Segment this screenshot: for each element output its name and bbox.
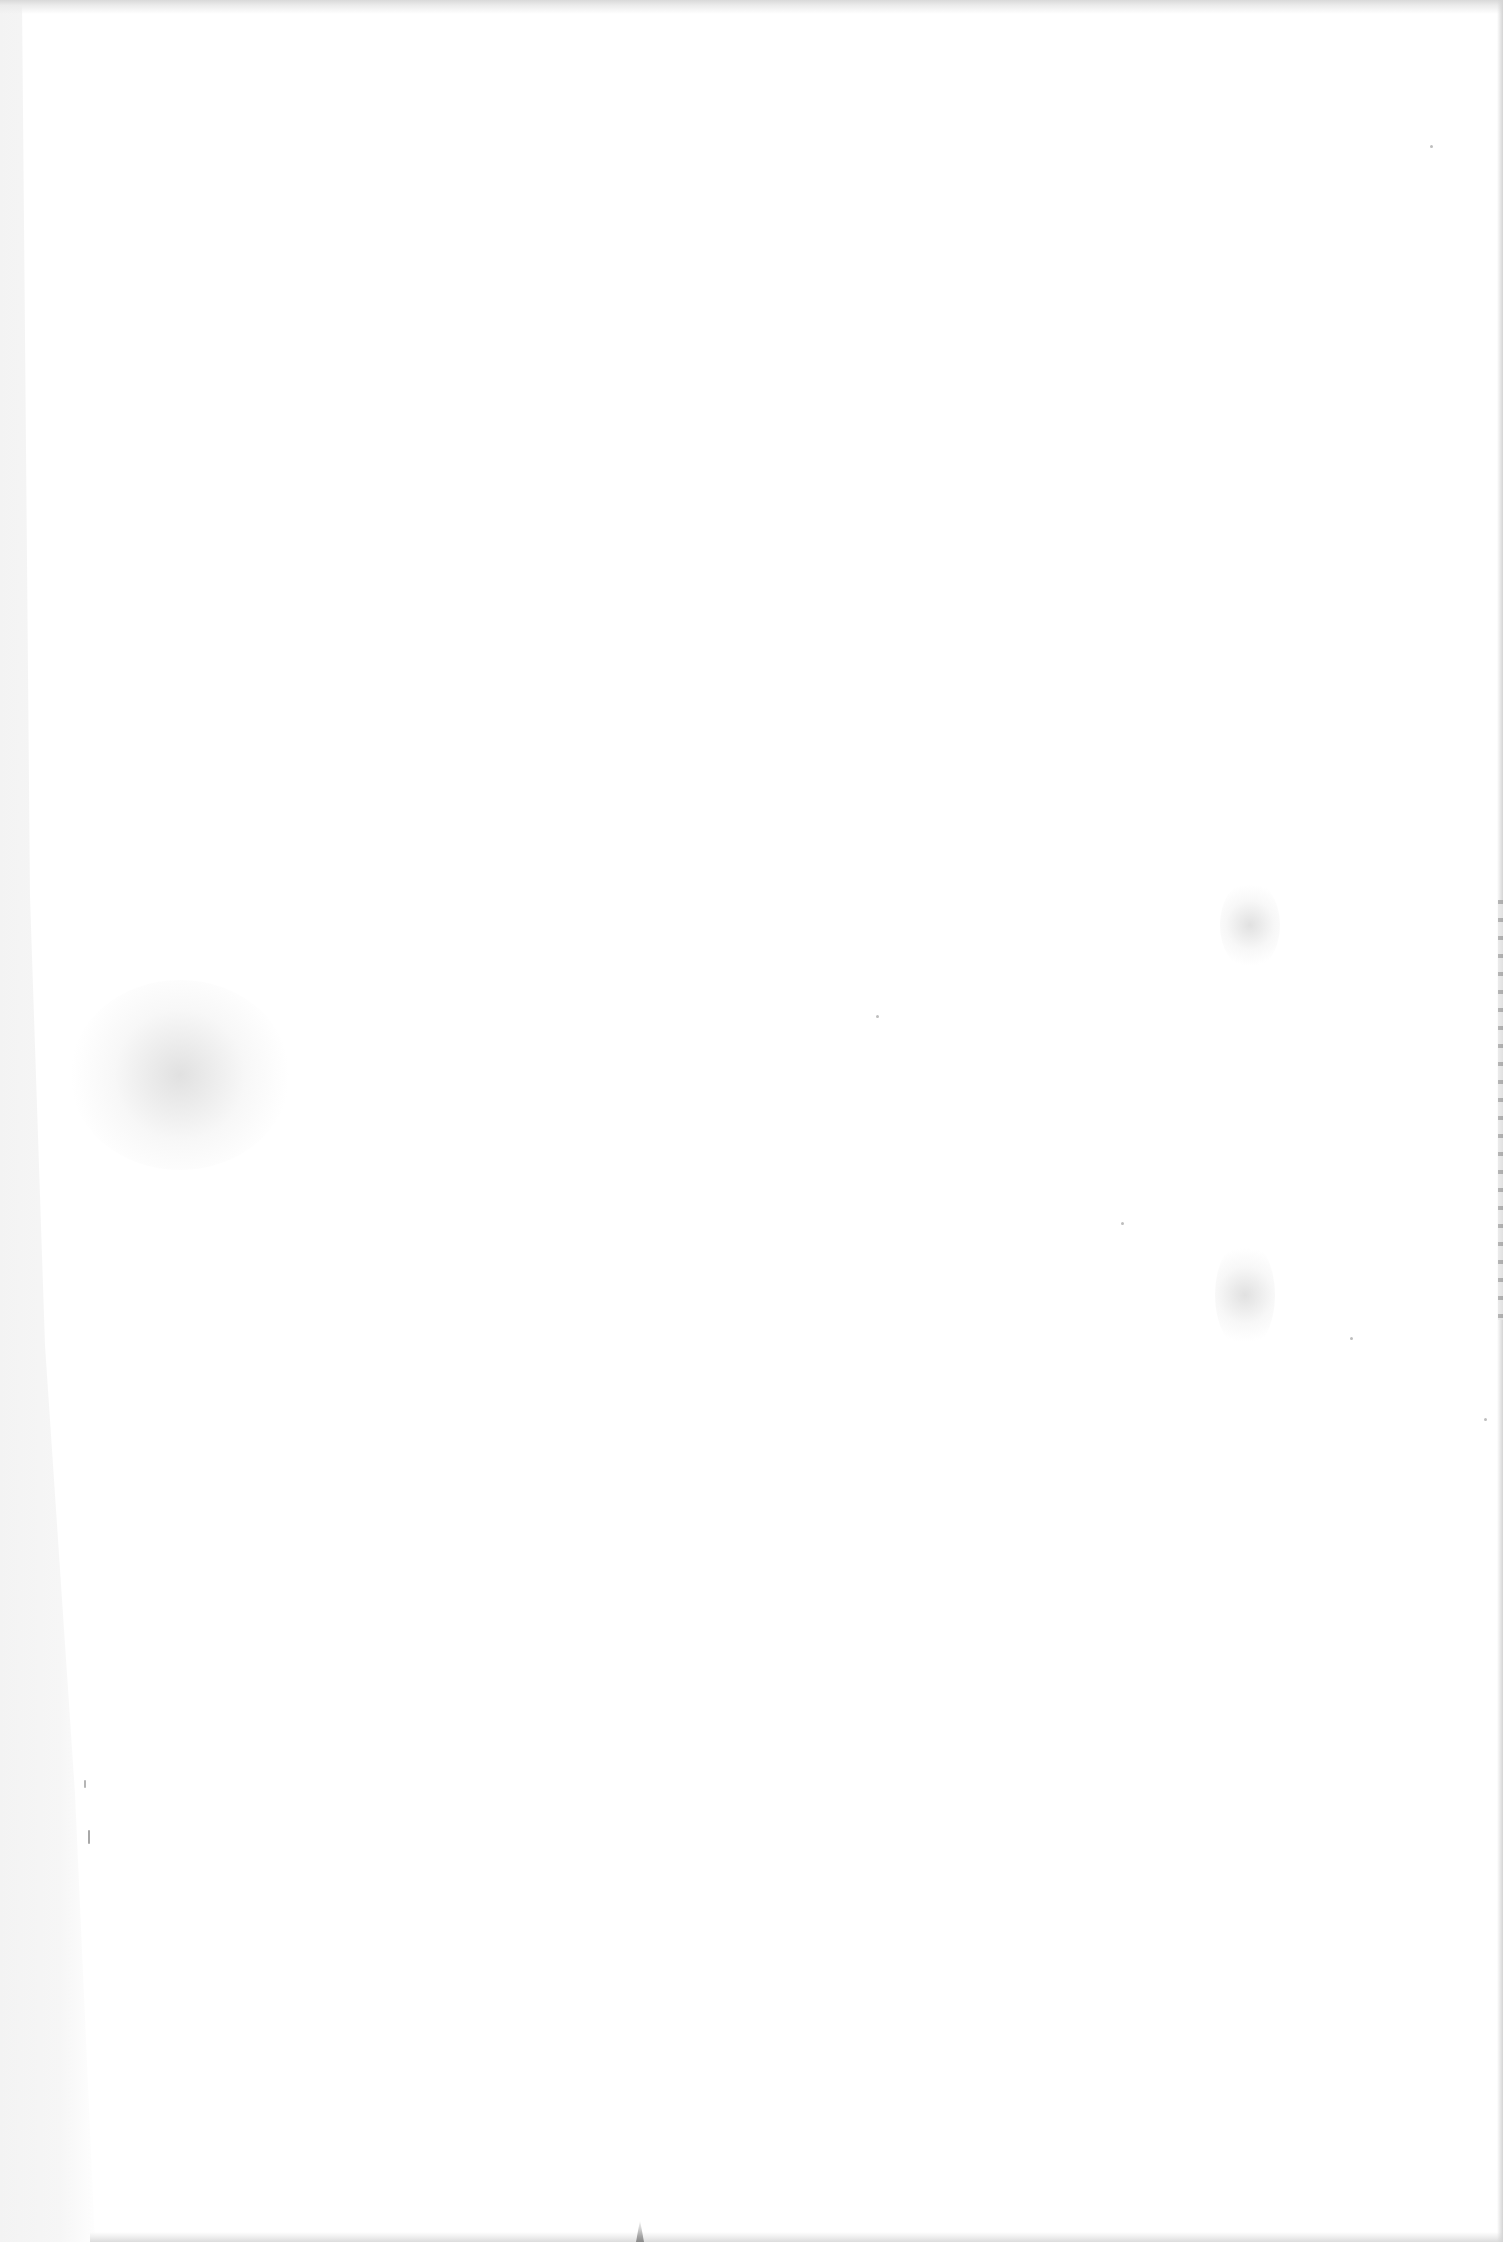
scan-speck	[876, 1015, 879, 1018]
scan-speck	[1121, 1222, 1124, 1225]
scan-speck	[1350, 1337, 1353, 1340]
scan-speck	[1430, 145, 1433, 148]
scan-artifact-mark	[636, 2220, 644, 2242]
scan-speck	[84, 1780, 86, 1788]
scan-smudge	[1220, 880, 1280, 970]
scan-speck	[1484, 1418, 1487, 1421]
scan-smudge	[70, 980, 290, 1170]
scan-smudge	[1215, 1240, 1275, 1350]
scan-top-edge	[0, 0, 1503, 14]
scan-right-edge-noise	[1498, 900, 1503, 1320]
blank-document-page	[0, 0, 1503, 2242]
scan-speck	[88, 1830, 90, 1844]
scan-bottom-edge	[90, 2232, 1503, 2242]
